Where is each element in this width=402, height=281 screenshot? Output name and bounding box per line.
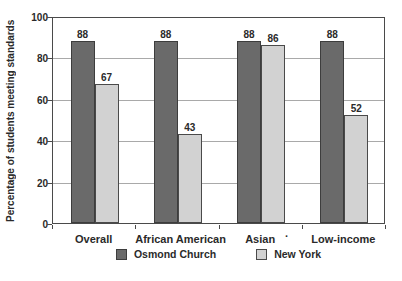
y-tick-mark-60: [47, 100, 52, 101]
x-tick-mark-2: [219, 225, 220, 229]
legend-swatch-osmond-church-icon: [116, 249, 127, 260]
y-tick-label-20: 20: [22, 178, 48, 189]
bar-value-label: 67: [85, 72, 129, 83]
y-tick-label-100: 100: [22, 12, 48, 23]
x-tick-mark-3: [302, 225, 303, 229]
y-tick-mark-20: [47, 183, 52, 184]
bar-chart: Percentage of students meeting standards…: [0, 0, 402, 281]
stray-period-mark: .: [285, 227, 288, 239]
legend-swatch-new-york-icon: [256, 249, 267, 260]
x-tick-mark-4: [385, 225, 386, 229]
legend: Osmond Church New York: [52, 248, 385, 260]
bar-value-label: 43: [168, 122, 212, 133]
bar-osmond-church-0: [71, 41, 95, 223]
y-axis-title: Percentage of students meeting standards: [2, 17, 18, 224]
bar-value-label: 88: [310, 29, 354, 40]
bar-new-york-0: [95, 84, 119, 223]
y-tick-label-40: 40: [22, 136, 48, 147]
x-tick-mark-1: [135, 225, 136, 229]
legend-item-new-york: New York: [256, 248, 321, 260]
bar-value-label: 52: [334, 103, 378, 114]
bar-value-label: 86: [251, 33, 295, 44]
bar-new-york-3: [344, 115, 368, 223]
category-label-asian: Asian: [219, 233, 302, 245]
bar-new-york-2: [261, 45, 285, 223]
y-tick-mark-40: [47, 141, 52, 142]
y-tick-mark-100: [47, 17, 52, 18]
y-tick-label-80: 80: [22, 53, 48, 64]
bar-osmond-church-3: [320, 41, 344, 223]
category-label-low-income: Low-income: [302, 233, 385, 245]
y-tick-label-0: 0: [22, 219, 48, 230]
y-tick-mark-80: [47, 58, 52, 59]
legend-label-new-york: New York: [274, 248, 321, 260]
x-tick-mark-0: [52, 225, 53, 229]
bar-new-york-1: [178, 134, 202, 223]
category-label-african-american: African American: [135, 233, 218, 245]
legend-item-osmond-church: Osmond Church: [116, 248, 216, 260]
plot-area: 8867884388868852: [52, 17, 385, 224]
bar-value-label: 88: [61, 29, 105, 40]
category-label-overall: Overall: [52, 233, 135, 245]
bar-osmond-church-2: [237, 41, 261, 223]
y-tick-label-60: 60: [22, 95, 48, 106]
bar-value-label: 88: [144, 29, 188, 40]
legend-label-osmond-church: Osmond Church: [134, 248, 216, 260]
